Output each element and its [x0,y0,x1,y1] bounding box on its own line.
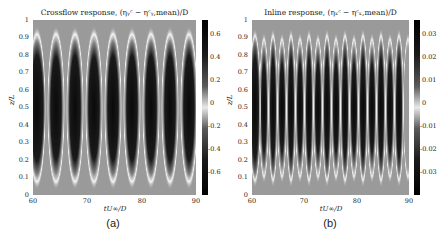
y-tick: 0.8 [228,51,248,59]
colorbar-tick: 0.02 [422,53,436,61]
colorbar-tick: 0.03 [422,30,436,38]
heatmap-plot-area [252,20,409,195]
y-tick: 0.2 [228,156,248,164]
y-axis-label: z/L [226,95,234,106]
panel-label: (b) [315,217,345,229]
plot-title: Inline response, (ηₓᶜ − ηᶜₓ,mean)/D [252,8,409,17]
x-axis-label: tU∞/D [311,205,351,213]
x-tick: 90 [399,197,419,205]
panel-inline: Inline response, (ηₓᶜ − ηᶜₓ,mean)/D [0,0,447,239]
colorbar-tick: 0.01 [422,76,436,84]
y-tick: 0.7 [228,68,248,76]
x-tick: 60 [242,197,262,205]
y-tick: 0.1 [228,173,248,181]
x-tick: 70 [294,197,314,205]
colorbar-tick: -0.02 [420,145,437,153]
colorbar-tick: 0 [422,99,426,107]
heatmap-inline [252,20,409,195]
y-tick: 0.6 [228,86,248,94]
y-tick: 0.3 [228,138,248,146]
x-tick: 80 [347,197,367,205]
colorbar-tick: -0.01 [420,122,437,130]
y-tick: 1 [228,16,248,24]
y-tick: 0.9 [228,33,248,41]
y-tick: 0.4 [228,121,248,129]
colorbar-tick: -0.03 [420,168,437,176]
